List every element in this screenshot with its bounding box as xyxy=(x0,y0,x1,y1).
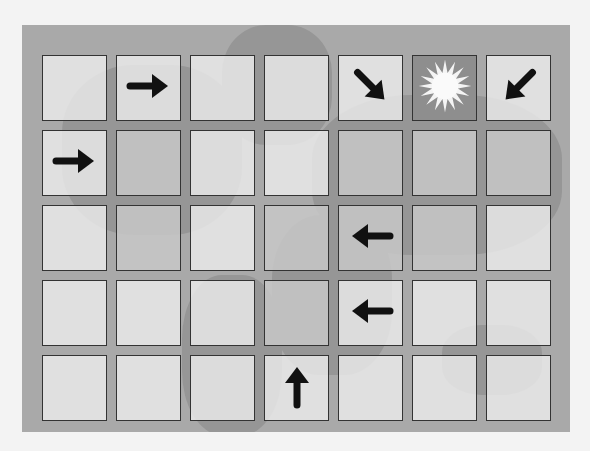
grid-cell-r1-c5[interactable] xyxy=(412,130,477,196)
grid-cell-r4-c5[interactable] xyxy=(412,355,477,421)
grid-cell-r2-c0[interactable] xyxy=(42,205,107,271)
grid-cell-r4-c2[interactable] xyxy=(190,355,255,421)
grid-cell-r2-c5[interactable] xyxy=(412,205,477,271)
grid-cell-r0-c6[interactable] xyxy=(486,55,551,121)
grid-cell-r4-c4[interactable] xyxy=(338,355,403,421)
grid-cell-r2-c6[interactable] xyxy=(486,205,551,271)
grid-cell-r3-c5[interactable] xyxy=(412,280,477,346)
grid-cell-r1-c3[interactable] xyxy=(264,130,329,196)
grid-cell-r4-c3[interactable] xyxy=(264,355,329,421)
arrow-right-icon xyxy=(50,136,100,190)
grid-cell-r1-c1[interactable] xyxy=(116,130,181,196)
arrow-up-icon xyxy=(272,361,322,415)
arrow-right-icon xyxy=(124,61,174,115)
grid-cell-r0-c2[interactable] xyxy=(190,55,255,121)
grid-cell-r3-c4[interactable] xyxy=(338,280,403,346)
grid-cell-r1-c0[interactable] xyxy=(42,130,107,196)
grid-cell-r4-c0[interactable] xyxy=(42,355,107,421)
arrow-down-right-icon xyxy=(346,61,396,115)
grid-cell-r3-c6[interactable] xyxy=(486,280,551,346)
grid-cell-r0-c5[interactable] xyxy=(412,55,477,121)
grid-cell-r2-c1[interactable] xyxy=(116,205,181,271)
grid-cell-r4-c1[interactable] xyxy=(116,355,181,421)
grid-cell-r1-c6[interactable] xyxy=(486,130,551,196)
arrow-down-left-icon xyxy=(494,61,544,115)
grid-cell-r1-c2[interactable] xyxy=(190,130,255,196)
grid-cell-r0-c1[interactable] xyxy=(116,55,181,121)
grid-cell-r2-c4[interactable] xyxy=(338,205,403,271)
grid-cell-r2-c3[interactable] xyxy=(264,205,329,271)
grid-cell-r1-c4[interactable] xyxy=(338,130,403,196)
sun-icon xyxy=(415,56,475,120)
grid-cell-r4-c6[interactable] xyxy=(486,355,551,421)
grid-cell-r0-c4[interactable] xyxy=(338,55,403,121)
arrow-left-icon xyxy=(346,286,396,340)
grid-cell-r3-c0[interactable] xyxy=(42,280,107,346)
grid-cell-r0-c3[interactable] xyxy=(264,55,329,121)
grid-cell-r3-c3[interactable] xyxy=(264,280,329,346)
grid-cell-r2-c2[interactable] xyxy=(190,205,255,271)
arrow-left-icon xyxy=(346,211,396,265)
grid-cell-r0-c0[interactable] xyxy=(42,55,107,121)
grid-cell-r3-c1[interactable] xyxy=(116,280,181,346)
grid-cell-r3-c2[interactable] xyxy=(190,280,255,346)
